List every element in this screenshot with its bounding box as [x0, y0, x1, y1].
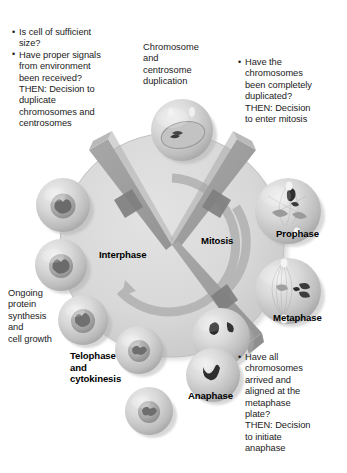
checkpoint-line: to enter mitosis: [238, 114, 342, 125]
checkpoint-line: Have proper signals: [12, 50, 138, 61]
phase-label-telophase: Telophase and cytokinesis: [70, 350, 148, 385]
checkpoint-line: been completely: [238, 80, 342, 91]
checkpoint-line: from environment: [12, 61, 138, 72]
checkpoint-line: centrosomes: [12, 118, 138, 129]
phase-label-line: cytokinesis: [70, 373, 148, 385]
checkpoint-line: THEN: Decision: [238, 420, 344, 431]
cell-cycle-figure: Is cell of sufficient size? Have proper …: [0, 0, 347, 473]
annotation-line: duplication: [143, 76, 235, 87]
phase-label-mitosis: Mitosis: [201, 235, 233, 247]
checkpoint-line: duplicated?: [238, 91, 342, 102]
checkpoint-line: Have all: [238, 352, 344, 363]
phase-label-line: and: [70, 362, 148, 374]
checkpoint-line: THEN: Decision to: [12, 84, 138, 95]
checkpoint-text-metaphase: Have all chromosomes arrived and aligned…: [238, 352, 344, 455]
checkpoint-line: to initiate: [238, 432, 344, 443]
checkpoint-line: size?: [12, 38, 138, 49]
annotation-line: and: [143, 53, 235, 64]
checkpoint-line: been received?: [12, 73, 138, 84]
checkpoint-line: Have the: [238, 57, 342, 68]
annotation-ongoing-growth: Ongoing protein synthesis and cell growt…: [8, 288, 88, 345]
phase-label-anaphase: Anaphase: [188, 390, 233, 402]
checkpoint-text-g1: Is cell of sufficient size? Have proper …: [12, 27, 138, 130]
phase-label-line: Telophase: [70, 350, 148, 362]
checkpoint-line: arrived and: [238, 375, 344, 386]
annotation-line: cell growth: [8, 334, 88, 345]
phase-label-prophase: Prophase: [276, 228, 319, 240]
cell-telophase: [125, 387, 177, 438]
checkpoint-line: chromosomes: [238, 363, 344, 374]
checkpoint-line: aligned at the: [238, 386, 344, 397]
annotation-line: protein: [8, 299, 88, 310]
annotation-duplication: Chromosome and centrosome duplication: [143, 42, 235, 88]
phase-label-metaphase: Metaphase: [273, 312, 322, 324]
checkpoint-line: THEN: Decision: [238, 103, 342, 114]
checkpoint-line: plate?: [238, 409, 344, 420]
checkpoint-line: chromosomes: [238, 68, 342, 79]
checkpoint-line: chromosomes and: [12, 107, 138, 118]
annotation-line: and: [8, 322, 88, 333]
checkpoint-line: duplicate: [12, 95, 138, 106]
checkpoint-line: metaphase: [238, 398, 344, 409]
annotation-line: centrosome: [143, 65, 235, 76]
annotation-line: Chromosome: [143, 42, 235, 53]
checkpoint-text-g2: Have the chromosomes been completely dup…: [238, 57, 342, 125]
annotation-line: synthesis: [8, 311, 88, 322]
annotation-line: Ongoing: [8, 288, 88, 299]
checkpoint-line: Is cell of sufficient: [12, 27, 138, 38]
checkpoint-line: anaphase: [238, 443, 344, 454]
phase-label-interphase: Interphase: [99, 249, 147, 261]
